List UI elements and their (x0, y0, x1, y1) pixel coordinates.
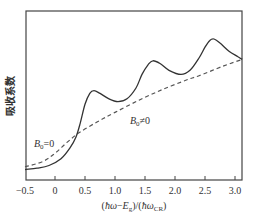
x-tick-label: 2.5 (199, 185, 212, 196)
x-tick-label: 0 (53, 185, 58, 196)
x-axis-label: (ħω−Eg)/(ħωCR) (102, 200, 167, 213)
x-tick-label: −0.5 (16, 185, 34, 196)
x-tick-label: 1.0 (109, 185, 122, 196)
y-axis-label: 吸收系数 (4, 75, 16, 116)
annotation-b0-nonzero: B0≠0 (130, 115, 150, 128)
series-b0-zero-dashed (25, 59, 242, 166)
series-b0-nonzero-solid (25, 39, 242, 170)
annotation-b0-zero: B0=0 (34, 138, 54, 151)
x-tick-label: 3.0 (229, 185, 242, 196)
x-tick-label: 2.0 (169, 185, 182, 196)
x-axis-ticks (55, 176, 235, 180)
x-tick-label: 0.5 (79, 185, 92, 196)
x-axis-tick-labels: −0.500.51.01.52.02.53.0 (16, 185, 241, 196)
x-tick-label: 1.5 (139, 185, 152, 196)
chart-svg: −0.500.51.01.52.02.53.0 吸收系数 B0=0 B0≠0 (… (0, 0, 255, 223)
plot-frame (26, 11, 242, 180)
